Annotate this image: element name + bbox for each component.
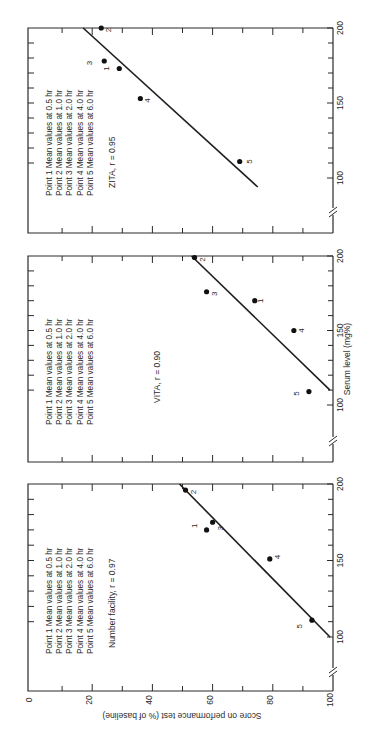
legend-entry: Point 2 Mean values at 1.0 hr bbox=[55, 547, 64, 654]
legend-entry: Point 1 Mean values at 0.5 hr bbox=[45, 547, 54, 654]
data-point-label: 2 bbox=[104, 27, 113, 32]
legend-entry: Point 2 Mean values at 1.0 hr bbox=[55, 89, 64, 196]
score-axis: 020406080100 bbox=[24, 693, 335, 707]
legend: Point 1 Mean values at 0.5 hrPoint 2 Mea… bbox=[45, 547, 95, 654]
data-point bbox=[138, 96, 143, 101]
score-tick-label: 0 bbox=[24, 697, 34, 702]
chart-figure: 100150200Point 1 Mean values at 0.5 hrPo… bbox=[0, 0, 369, 729]
data-point bbox=[237, 159, 242, 164]
data-point-label: 4 bbox=[143, 98, 152, 103]
serum-tick-label: 150 bbox=[335, 553, 345, 567]
serum-tick-label: 100 bbox=[335, 398, 345, 412]
chart-panel-2: 100150200Point 1 Mean values at 0.5 hrPo… bbox=[28, 249, 345, 462]
data-point-label: 5 bbox=[245, 159, 254, 164]
data-point bbox=[309, 618, 314, 623]
serum-tick-label: 200 bbox=[335, 21, 345, 35]
regression-line bbox=[179, 484, 329, 637]
data-point-label: 5 bbox=[295, 623, 304, 628]
data-point bbox=[102, 58, 107, 63]
data-point-label: 1 bbox=[102, 66, 111, 71]
legend-entry: Point 3 Mean values at 2.0 hr bbox=[65, 318, 74, 425]
legend-entry: Point 3 Mean values at 2.0 hr bbox=[65, 547, 74, 654]
legend: Point 1 Mean values at 0.5 hrPoint 2 Mea… bbox=[45, 89, 95, 196]
data-point-label: 3 bbox=[216, 525, 225, 530]
data-point bbox=[267, 556, 272, 561]
legend-entry: Point 5 Mean values at 6.0 hr bbox=[86, 547, 95, 654]
chart-panels: 100150200Point 1 Mean values at 0.5 hrPo… bbox=[28, 21, 345, 691]
data-point bbox=[291, 328, 296, 333]
panel-title: Number facility, r = 0.97 bbox=[107, 558, 117, 648]
data-point-label: 2 bbox=[198, 257, 207, 262]
legend-entry: Point 5 Mean values at 6.0 hr bbox=[86, 89, 95, 196]
score-tick-label: 20 bbox=[84, 695, 94, 705]
data-point bbox=[192, 255, 197, 260]
data-point-label: 1 bbox=[256, 298, 265, 303]
panel-title: VITA, r = 0.90 bbox=[152, 351, 162, 403]
data-point-label: 1 bbox=[190, 523, 199, 528]
legend-entry: Point 1 Mean values at 0.5 hr bbox=[45, 318, 54, 425]
data-point-label: 3 bbox=[210, 291, 219, 296]
data-point bbox=[210, 520, 215, 525]
data-point bbox=[204, 289, 209, 294]
data-point bbox=[99, 25, 104, 30]
legend-entry: Point 4 Mean values at 4.0 hr bbox=[76, 547, 85, 654]
legend-entry: Point 3 Mean values at 2.0 hr bbox=[65, 89, 74, 196]
data-point bbox=[204, 527, 209, 532]
serum-tick-label: 200 bbox=[335, 477, 345, 491]
regression-line bbox=[192, 256, 330, 390]
chart-panel-1: 100150200Point 1 Mean values at 0.5 hrPo… bbox=[28, 21, 345, 233]
data-point-label: 4 bbox=[297, 328, 306, 333]
panel-title: ZITA, r = 0.95 bbox=[107, 136, 117, 188]
data-point-label: 5 bbox=[292, 391, 301, 396]
data-point-label: 4 bbox=[273, 554, 282, 559]
chart-panel-3: 100150200Point 1 Mean values at 0.5 hrPo… bbox=[28, 477, 345, 691]
serum-axis-label: Serum level (mg%) bbox=[342, 323, 352, 395]
legend-entry: Point 5 Mean values at 6.0 hr bbox=[86, 318, 95, 425]
score-tick-label: 40 bbox=[144, 695, 154, 705]
serum-tick-label: 100 bbox=[335, 171, 345, 185]
legend: Point 1 Mean values at 0.5 hrPoint 2 Mea… bbox=[45, 318, 95, 425]
score-tick-label: 80 bbox=[265, 695, 275, 705]
legend-entry: Point 2 Mean values at 1.0 hr bbox=[55, 318, 64, 425]
data-point bbox=[117, 66, 122, 71]
data-point bbox=[183, 488, 188, 493]
score-tick-label: 100 bbox=[325, 693, 335, 707]
serum-tick-label: 100 bbox=[335, 630, 345, 644]
legend-entry: Point 1 Mean values at 0.5 hr bbox=[45, 89, 54, 196]
score-tick-label: 60 bbox=[205, 695, 215, 705]
data-point-label: 3 bbox=[85, 60, 94, 65]
serum-tick-label: 200 bbox=[335, 249, 345, 263]
data-point-label: 2 bbox=[189, 489, 198, 494]
score-axis-label: Score on performance test (% of baseline… bbox=[102, 711, 261, 721]
legend-entry: Point 4 Mean values at 4.0 hr bbox=[76, 89, 85, 196]
legend-entry: Point 4 Mean values at 4.0 hr bbox=[76, 318, 85, 425]
serum-tick-label: 150 bbox=[335, 96, 345, 110]
data-point bbox=[306, 389, 311, 394]
